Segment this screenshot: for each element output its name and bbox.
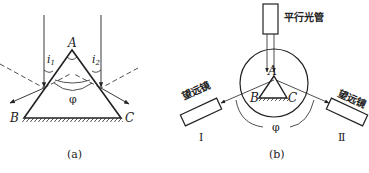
normal-dashed-left <box>0 64 44 88</box>
incidence-angle-1-label: i1 <box>47 53 55 67</box>
vertex-label-b: B <box>9 111 19 125</box>
angle-phi-arc <box>54 83 92 91</box>
apex-angle-arc <box>67 57 77 60</box>
prism-base-hatching <box>257 98 289 101</box>
angle-i2-arc <box>92 70 101 72</box>
normal-dashed-right <box>101 68 138 88</box>
collimator-label: 平行光管 <box>284 11 324 23</box>
figure-a: A B C i1 i2 φ (a) <box>0 15 138 161</box>
base-hatching <box>22 118 123 122</box>
prism-diagram: A B C i1 i2 φ (a) 平行光管 望远镜 Ⅰ 望远镜 <box>0 0 369 173</box>
angle-i1-arc <box>44 70 53 72</box>
telescope-numeral-2: Ⅱ <box>338 131 345 144</box>
phi-label-b: φ <box>272 121 280 134</box>
reflected-ray-left <box>10 88 44 103</box>
angle-phi-arc-inner <box>55 80 90 83</box>
caption-a: (a) <box>67 148 82 161</box>
prism-triangle-b <box>259 76 287 98</box>
vertex-label-c-b: C <box>288 91 297 105</box>
phi-label-a: φ <box>69 93 77 106</box>
vertex-label-b-b: B <box>249 91 259 105</box>
incidence-angle-2-label: i2 <box>92 53 101 67</box>
telescope-label-2: 望远镜 <box>336 87 368 111</box>
figure-b: 平行光管 望远镜 Ⅰ 望远镜 Ⅱ A B C φ (b) <box>180 4 369 161</box>
telescope-1 <box>180 98 221 126</box>
caption-b: (b) <box>269 148 285 161</box>
vertex-label-c: C <box>125 111 134 125</box>
collimator <box>263 4 278 34</box>
telescope-label-1: 望远镜 <box>180 78 212 102</box>
apex-label-a: A <box>67 36 77 50</box>
prism-triangle <box>24 50 121 118</box>
apex-label-a-b: A <box>267 64 277 78</box>
telescope-numeral-1: Ⅰ <box>199 131 203 144</box>
